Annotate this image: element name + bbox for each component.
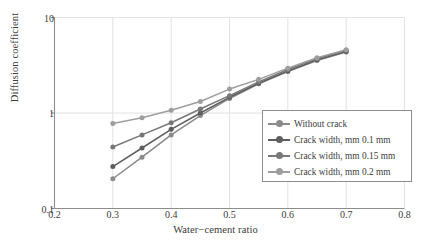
legend-marker-icon xyxy=(268,118,290,130)
data-point xyxy=(227,93,232,98)
x-tick-label: 0.5 xyxy=(223,209,236,220)
legend-item-0[interactable]: Without crack xyxy=(263,116,411,132)
data-point xyxy=(315,55,320,60)
x-tick-label: 0.8 xyxy=(398,209,411,220)
data-point xyxy=(169,127,174,132)
legend-item-2[interactable]: Crack width, mm 0.15 mm xyxy=(263,148,411,164)
data-point xyxy=(227,87,232,92)
data-point xyxy=(285,66,290,71)
legend-label: Without crack xyxy=(290,119,347,129)
data-point xyxy=(110,121,115,126)
legend-marker-icon xyxy=(268,166,290,178)
x-tick-label: 0.6 xyxy=(282,209,295,220)
data-point xyxy=(198,107,203,112)
data-point xyxy=(169,120,174,125)
data-point xyxy=(169,132,174,137)
chart-legend: Without crackCrack width, mm 0.1 mmCrack… xyxy=(262,110,412,182)
x-tick-label: 0.7 xyxy=(340,209,353,220)
legend-label: Crack width, mm 0.1 mm xyxy=(290,135,391,145)
data-point xyxy=(140,146,145,151)
x-tick-label: 0.3 xyxy=(107,209,120,220)
y-axis-title: Diffusion coefficient xyxy=(9,0,20,118)
x-axis-title: Water−cement ratio xyxy=(0,224,431,235)
x-tick-label: 0.4 xyxy=(165,209,178,220)
legend-item-3[interactable]: Crack width, mm 0.2 mm xyxy=(263,164,411,180)
legend-marker-icon xyxy=(268,134,290,146)
data-point xyxy=(140,132,145,137)
data-point xyxy=(344,47,349,52)
y-tick-label: 0.1 xyxy=(42,203,55,214)
legend-label: Crack width, mm 0.15 mm xyxy=(290,151,395,161)
chart-figure: Diffusion coefficient Water−cement ratio… xyxy=(0,0,431,246)
data-point xyxy=(140,115,145,120)
data-point xyxy=(169,108,174,113)
legend-item-1[interactable]: Crack width, mm 0.1 mm xyxy=(263,132,411,148)
legend-marker-icon xyxy=(268,150,290,162)
legend-label: Crack width, mm 0.2 mm xyxy=(290,167,391,177)
data-point xyxy=(110,176,115,181)
data-point xyxy=(110,145,115,150)
data-point xyxy=(256,77,261,82)
data-point xyxy=(140,155,145,160)
y-tick-label: 10 xyxy=(44,12,54,23)
data-point xyxy=(198,99,203,104)
y-tick-label: 1 xyxy=(49,108,54,119)
data-point xyxy=(110,164,115,169)
